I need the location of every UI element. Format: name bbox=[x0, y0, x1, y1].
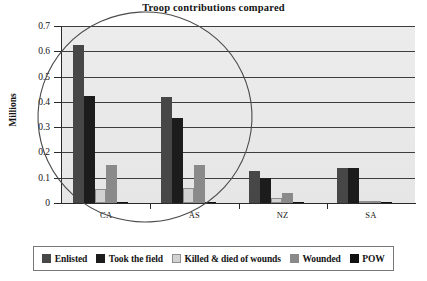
x-axis-category-label: SA bbox=[327, 210, 415, 220]
legend-item[interactable]: Enlisted bbox=[42, 254, 87, 264]
x-axis-tick bbox=[327, 203, 328, 209]
legend-swatch-killed-died-of-wounds bbox=[172, 254, 181, 263]
legend-swatch-enlisted bbox=[42, 254, 51, 263]
bar-group bbox=[161, 26, 216, 203]
bar bbox=[106, 165, 117, 203]
bar bbox=[194, 165, 205, 203]
x-axis-tick bbox=[150, 203, 151, 209]
bar bbox=[183, 188, 194, 203]
bar bbox=[172, 118, 183, 203]
bar bbox=[84, 96, 95, 203]
y-axis-tick bbox=[54, 77, 61, 78]
bar bbox=[249, 171, 260, 203]
y-axis-tick-label: 0.3 bbox=[0, 122, 50, 132]
bar bbox=[73, 45, 84, 203]
bar bbox=[348, 168, 359, 203]
y-axis-tick-label: 0.6 bbox=[0, 46, 50, 56]
bar bbox=[282, 193, 293, 203]
chart-title: Troop contributions compared bbox=[0, 2, 427, 13]
x-axis-category-label: AS bbox=[150, 210, 238, 220]
y-axis-line bbox=[61, 26, 62, 204]
legend-label: Enlisted bbox=[55, 254, 87, 264]
legend-swatch-took-the-field bbox=[96, 254, 105, 263]
legend: Enlisted Took the field Killed & died of… bbox=[33, 246, 394, 271]
legend-item[interactable]: Took the field bbox=[96, 254, 163, 264]
legend-swatch-pow bbox=[350, 254, 359, 263]
y-axis-tick-label: 0 bbox=[0, 198, 50, 208]
y-axis-tick-label: 0.2 bbox=[0, 147, 50, 157]
y-axis-tick bbox=[54, 127, 61, 128]
y-axis-tick bbox=[54, 203, 61, 204]
legend-item[interactable]: POW bbox=[350, 254, 385, 264]
bar bbox=[95, 189, 106, 203]
bar bbox=[260, 178, 271, 203]
bar-group bbox=[73, 26, 128, 203]
y-axis-tick-label: 0.5 bbox=[0, 72, 50, 82]
bar bbox=[337, 168, 348, 203]
legend-label: Wounded bbox=[302, 254, 340, 264]
y-axis-tick-label: 0.1 bbox=[0, 173, 50, 183]
y-axis-tick-label: 0.4 bbox=[0, 97, 50, 107]
legend-label: Took the field bbox=[109, 254, 163, 264]
legend-label: Killed & died of wounds bbox=[184, 254, 280, 264]
y-axis-tick bbox=[54, 51, 61, 52]
plot-area bbox=[62, 26, 415, 203]
y-axis-tick bbox=[54, 102, 61, 103]
bar-group bbox=[249, 26, 304, 203]
y-axis-tick bbox=[54, 178, 61, 179]
bar bbox=[161, 97, 172, 203]
y-axis-tick-label: 0.7 bbox=[0, 21, 50, 31]
bar-group bbox=[337, 26, 392, 203]
x-axis-category-label: CA bbox=[62, 210, 150, 220]
x-axis-tick bbox=[239, 203, 240, 209]
y-axis-tick bbox=[54, 26, 61, 27]
legend-item[interactable]: Wounded bbox=[290, 254, 341, 264]
legend-label: POW bbox=[362, 254, 384, 264]
y-axis-tick bbox=[54, 152, 61, 153]
legend-swatch-wounded bbox=[290, 254, 299, 263]
x-axis-category-label: NZ bbox=[239, 210, 327, 220]
chart-container: Troop contributions compared Millions 0.… bbox=[0, 0, 427, 281]
legend-item[interactable]: Killed & died of wounds bbox=[172, 254, 281, 264]
y-axis-title: Millions bbox=[8, 75, 18, 145]
